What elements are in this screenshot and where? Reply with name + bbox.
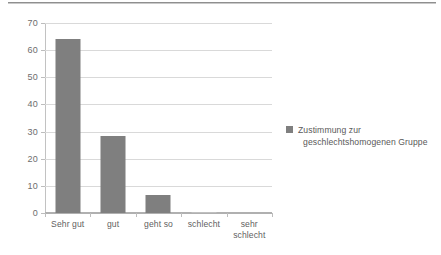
bar-slot: [136, 23, 181, 213]
x-label-line: gut: [90, 219, 135, 230]
legend-swatch-icon: [286, 126, 293, 133]
y-tick-label-10: 10: [28, 181, 38, 191]
legend-entry-label: Zustimmung zur geschlechtshomogenen Grup…: [298, 124, 428, 148]
bar-slot: [181, 23, 226, 213]
x-category-label-gut: gut: [90, 219, 135, 230]
bar-slot: [227, 23, 272, 213]
legend-label-line-1: Zustimmung zur: [298, 125, 361, 135]
y-tick-label-50: 50: [28, 72, 38, 82]
y-tick-label-0: 0: [33, 208, 38, 218]
x-tick: [227, 213, 228, 217]
y-tick-label-40: 40: [28, 99, 38, 109]
legend-label-line-2: geschlechtshomogenen Gruppe: [303, 136, 428, 148]
chart-legend: Zustimmung zur geschlechtshomogenen Grup…: [286, 124, 438, 148]
bar-gut[interactable]: [101, 136, 126, 213]
x-category-label-sehr-schlecht: sehrschlecht: [227, 219, 272, 241]
bar-series-layer: [45, 23, 272, 213]
x-tick: [181, 213, 182, 217]
bar-slot: [90, 23, 135, 213]
x-label-line: Sehr gut: [45, 219, 90, 230]
x-label-line: schlecht: [227, 230, 272, 241]
x-category-label-sehr-gut: Sehr gut: [45, 219, 90, 230]
y-tick-label-20: 20: [28, 154, 38, 164]
x-tick: [136, 213, 137, 217]
bar-slot: [45, 23, 90, 213]
y-tick-label-70: 70: [28, 18, 38, 28]
bar-geht-so[interactable]: [146, 195, 171, 213]
x-tick: [272, 213, 273, 217]
bar-schlecht[interactable]: [191, 212, 216, 213]
chart-figure: 010203040506070 Sehr gutgutgeht soschlec…: [0, 0, 441, 255]
x-label-line: schlecht: [181, 219, 226, 230]
plot-area: 010203040506070: [45, 23, 272, 213]
x-tick: [90, 213, 91, 217]
x-label-line: sehr: [227, 219, 272, 230]
x-category-label-schlecht: schlecht: [181, 219, 226, 230]
gridline-0: [45, 213, 272, 214]
y-tick-label-60: 60: [28, 45, 38, 55]
bar-sehr-gut[interactable]: [55, 39, 80, 213]
y-tick-label-30: 30: [28, 127, 38, 137]
x-tick: [45, 213, 46, 217]
x-label-line: geht so: [136, 219, 181, 230]
page-top-rule-shadow: [8, 3, 436, 4]
x-axis-category-labels: Sehr gutgutgeht soschlechtsehrschlecht: [45, 219, 272, 253]
x-category-label-geht-so: geht so: [136, 219, 181, 230]
